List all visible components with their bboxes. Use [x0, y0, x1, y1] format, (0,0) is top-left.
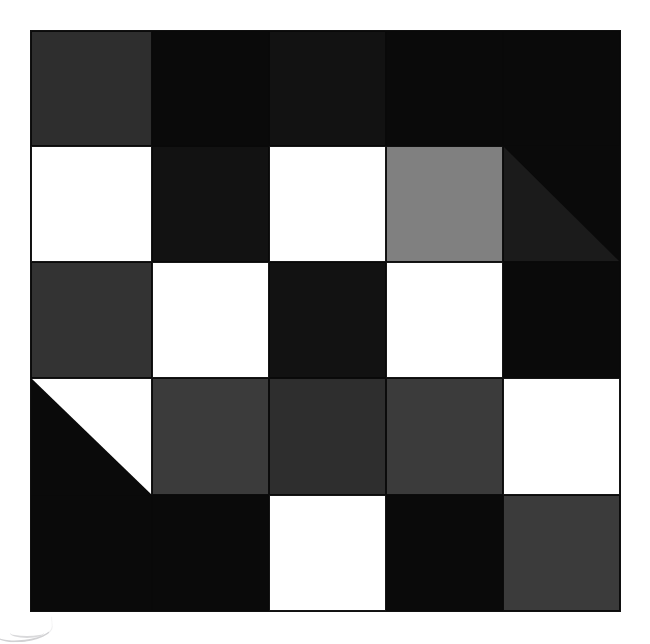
patch-r1c3 — [269, 31, 386, 146]
patch-r2c5 — [503, 146, 620, 262]
patch-r1c1 — [31, 31, 152, 146]
patch-r2c4 — [386, 146, 503, 262]
patch-r4c2 — [152, 378, 269, 495]
image-canvas — [0, 0, 650, 644]
patch-r3c4 — [386, 262, 503, 378]
patch-r2c5-triangle — [503, 146, 620, 262]
patch-r5c2 — [152, 495, 269, 611]
patch-r2c2 — [152, 146, 269, 262]
patch-r4c1-triangle — [31, 378, 152, 495]
patch-r3c1 — [31, 262, 152, 378]
patch-r5c1 — [31, 495, 152, 611]
patch-r3c5 — [503, 262, 620, 378]
patch-r2c3 — [269, 146, 386, 262]
patch-r5c5 — [503, 495, 620, 611]
patch-r5c3 — [269, 495, 386, 611]
patch-r1c2 — [152, 31, 269, 146]
patch-r4c5 — [503, 378, 620, 495]
patch-r4c4 — [386, 378, 503, 495]
patch-r5c4 — [386, 495, 503, 611]
patch-r4c3 — [269, 378, 386, 495]
patch-r3c3 — [269, 262, 386, 378]
quilt-block — [31, 31, 620, 611]
patch-r4c1 — [31, 378, 152, 495]
patch-r1c4 — [386, 31, 503, 146]
patch-r2c1 — [31, 146, 152, 262]
patch-r1c5 — [503, 31, 620, 146]
patch-r3c2 — [152, 262, 269, 378]
scan-arc-artifact-secondary — [10, 628, 44, 638]
